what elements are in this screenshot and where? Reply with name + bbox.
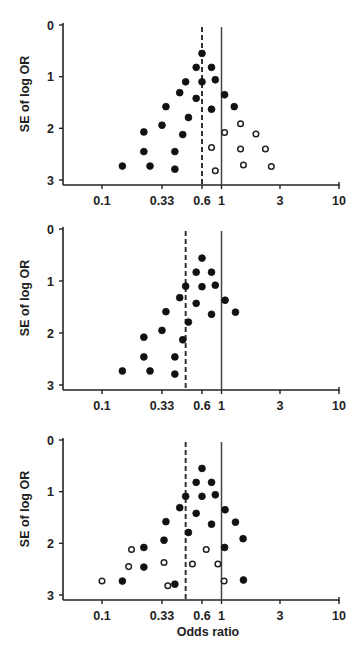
- y-tick-label: 2: [47, 327, 54, 341]
- open-study-marker: [215, 561, 221, 567]
- x-tick-label: 1: [218, 609, 225, 623]
- open-study-marker: [203, 547, 209, 553]
- filled-study-marker: [199, 50, 206, 57]
- open-study-marker: [269, 164, 275, 170]
- x-tick-label: 3: [277, 609, 284, 623]
- filled-study-marker: [193, 64, 200, 71]
- filled-study-marker: [208, 521, 215, 528]
- y-axis-title: SE of log OR: [18, 471, 32, 547]
- filled-study-marker: [119, 163, 126, 170]
- filled-study-marker: [182, 78, 189, 85]
- filled-study-marker: [212, 282, 219, 289]
- y-tick-label: 3: [47, 379, 54, 393]
- x-tick-label: 0.33: [150, 399, 174, 413]
- filled-study-marker: [208, 479, 215, 486]
- x-tick-label: 0.6: [193, 399, 210, 413]
- filled-study-marker: [171, 354, 178, 361]
- x-tick-label: 10: [332, 399, 346, 413]
- open-study-marker: [222, 130, 228, 136]
- filled-study-marker: [171, 148, 178, 155]
- filled-study-marker: [163, 103, 170, 110]
- filled-study-marker: [171, 371, 178, 378]
- y-tick-label: 0: [47, 223, 54, 237]
- open-study-marker: [190, 561, 196, 567]
- filled-study-marker: [159, 122, 166, 129]
- filled-study-marker: [179, 336, 186, 343]
- filled-study-marker: [171, 166, 178, 173]
- open-study-marker: [263, 146, 269, 152]
- filled-study-marker: [171, 581, 178, 588]
- filled-study-marker: [208, 106, 215, 113]
- filled-study-marker: [161, 537, 168, 544]
- filled-study-marker: [232, 519, 239, 526]
- x-tick-label: 1: [218, 194, 225, 208]
- filled-study-marker: [140, 129, 147, 136]
- x-tick-label: 1: [218, 399, 225, 413]
- filled-study-marker: [147, 163, 154, 170]
- open-study-marker: [221, 578, 227, 584]
- x-tick-label: 10: [332, 194, 346, 208]
- y-tick-label: 2: [47, 537, 54, 551]
- y-tick-label: 3: [47, 174, 54, 188]
- y-tick-label: 0: [47, 19, 54, 33]
- filled-study-marker: [159, 327, 166, 334]
- filled-study-marker: [193, 510, 200, 517]
- x-tick-label: 0.33: [150, 194, 174, 208]
- funnel-plot-panel-2: 01230.10.330.61310SE of log OR: [18, 223, 346, 414]
- funnel-plot-figure: 01230.10.330.61310SE of log OR01230.10.3…: [0, 0, 364, 651]
- filled-study-marker: [185, 114, 192, 121]
- y-axis-title: SE of log OR: [18, 260, 32, 336]
- open-study-marker: [161, 560, 167, 566]
- filled-study-marker: [176, 504, 183, 511]
- open-study-marker: [238, 146, 244, 152]
- filled-study-marker: [147, 368, 154, 375]
- y-tick-label: 1: [47, 485, 54, 499]
- filled-study-marker: [119, 368, 126, 375]
- filled-study-marker: [140, 544, 147, 551]
- y-tick-label: 0: [47, 434, 54, 448]
- y-tick-label: 1: [47, 70, 54, 84]
- open-study-marker: [238, 121, 244, 127]
- filled-study-marker: [176, 294, 183, 301]
- filled-study-marker: [232, 309, 239, 316]
- funnel-plot-panel-3: 01230.10.330.61310SE of log OROdds ratio: [18, 434, 346, 640]
- filled-study-marker: [199, 255, 206, 262]
- y-tick-label: 2: [47, 122, 54, 136]
- filled-study-marker: [140, 564, 147, 571]
- x-tick-label: 0.6: [193, 194, 210, 208]
- filled-study-marker: [176, 89, 183, 96]
- open-study-marker: [129, 547, 135, 553]
- x-tick-label: 0.1: [93, 399, 110, 413]
- funnel-plot-panel-1: 01230.10.330.61310SE of log OR: [18, 19, 346, 209]
- filled-study-marker: [199, 283, 206, 290]
- filled-study-marker: [140, 148, 147, 155]
- x-tick-label: 0.33: [150, 609, 174, 623]
- filled-study-marker: [163, 518, 170, 525]
- filled-study-marker: [221, 544, 228, 551]
- x-axis-title: Odds ratio: [177, 625, 240, 639]
- y-tick-label: 3: [47, 589, 54, 603]
- filled-study-marker: [193, 479, 200, 486]
- filled-study-marker: [208, 64, 215, 71]
- filled-study-marker: [185, 529, 192, 536]
- open-study-marker: [212, 168, 218, 174]
- x-tick-label: 3: [277, 399, 284, 413]
- filled-study-marker: [140, 354, 147, 361]
- filled-study-marker: [221, 91, 228, 98]
- filled-study-marker: [193, 269, 200, 276]
- filled-study-marker: [208, 311, 215, 318]
- filled-study-marker: [199, 493, 206, 500]
- filled-study-marker: [193, 300, 200, 307]
- x-tick-label: 3: [277, 194, 284, 208]
- filled-study-marker: [199, 78, 206, 85]
- filled-study-marker: [182, 493, 189, 500]
- filled-study-marker: [240, 535, 247, 542]
- filled-study-marker: [240, 577, 247, 584]
- x-tick-label: 0.1: [93, 609, 110, 623]
- filled-study-marker: [222, 297, 229, 304]
- funnel-plots-svg: 01230.10.330.61310SE of log OR01230.10.3…: [0, 0, 364, 651]
- filled-study-marker: [179, 131, 186, 138]
- open-study-marker: [209, 145, 215, 151]
- open-study-marker: [241, 162, 247, 168]
- open-study-marker: [99, 578, 105, 584]
